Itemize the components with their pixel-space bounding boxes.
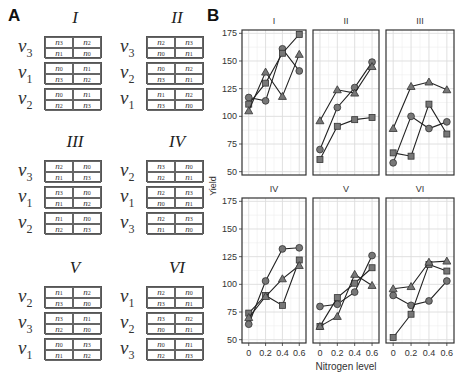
marker-circle [408,113,415,120]
marker-circle [317,303,324,310]
facet-IV: IV507510012515017500.20.40.6 [222,184,306,358]
x-tick-label: 0.2 [259,348,272,358]
marker-square [263,80,269,86]
marker-circle [279,246,286,253]
y-axis-label: Yield [208,176,218,196]
y-tick-label: 100 [222,279,237,289]
marker-square [279,50,285,56]
facet-label: III [416,16,424,26]
y-tick-label: 125 [222,84,237,94]
facet-label: IV [270,184,279,194]
marker-circle [296,244,303,251]
x-tick-label: 0.6 [293,348,306,358]
x-tick-label: 0 [391,348,396,358]
x-tick-label: 0.4 [423,348,436,358]
marker-circle [262,97,269,104]
marker-square [444,268,450,274]
marker-square [369,114,375,120]
y-tick-label: 150 [222,56,237,66]
marker-square [352,117,358,123]
x-tick-label: 0.4 [348,348,361,358]
facet-label: II [343,16,348,26]
y-tick-label: 125 [222,252,237,262]
x-tick-label: 0 [246,348,251,358]
marker-circle [390,159,397,166]
facet-label: VI [416,184,425,194]
marker-square [390,334,396,340]
y-tick-label: 75 [227,307,237,317]
facet-label: I [273,16,276,26]
y-tick-label: 175 [222,28,237,38]
marker-circle [426,125,433,132]
y-tick-label: 175 [222,196,237,206]
x-tick-label: 0 [317,348,322,358]
marker-square [334,123,340,129]
marker-circle [245,94,252,101]
marker-circle [245,321,252,328]
facet-I: I5075100125150175 [222,16,306,177]
y-tick-label: 50 [227,335,237,345]
marker-circle [369,252,376,259]
y-tick-label: 75 [227,139,237,149]
x-tick-label: 0.2 [331,348,344,358]
marker-circle [443,278,450,285]
marker-square [369,265,375,271]
facet-III: III [386,16,454,175]
yield-chart: I5075100125150175IIIIIIV5075100125150175… [0,0,467,387]
facet-label: V [343,184,349,194]
marker-square [296,31,302,37]
marker-square [444,131,450,137]
marker-circle [334,104,341,111]
marker-circle [296,68,303,75]
marker-circle [426,298,433,305]
marker-square [317,157,323,163]
marker-square [334,295,340,301]
x-tick-label: 0.6 [441,348,454,358]
facet-II: II [313,16,379,175]
marker-square [408,153,414,159]
x-tick-label: 0.4 [276,348,289,358]
marker-square [352,280,358,286]
marker-circle [443,118,450,125]
x-tick-label: 0.6 [366,348,379,358]
marker-square [279,302,285,308]
y-tick-label: 150 [222,224,237,234]
y-tick-label: 100 [222,111,237,121]
x-tick-label: 0.2 [405,348,418,358]
marker-circle [390,292,397,299]
facet-V: V00.20.40.6 [313,184,379,358]
facet-VI: VI00.20.40.6 [386,184,454,358]
marker-circle [262,278,269,285]
x-axis-label: Nitrogen level [315,361,376,372]
marker-square [390,150,396,156]
marker-circle [317,146,324,153]
marker-circle [351,289,358,296]
y-tick-label: 50 [227,167,237,177]
marker-square [426,101,432,107]
marker-square [408,311,414,317]
